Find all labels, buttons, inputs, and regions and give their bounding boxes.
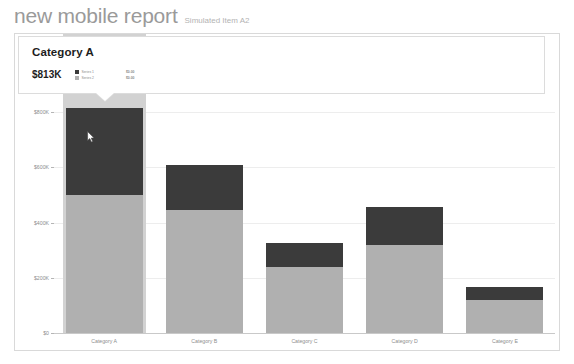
- y-axis-tick-label: $600K: [9, 164, 49, 170]
- x-axis-tick-label: Category C: [265, 338, 345, 344]
- legend-label: Series 1: [81, 70, 93, 74]
- bar-segment[interactable]: [466, 300, 543, 333]
- bar-segment[interactable]: [66, 195, 143, 333]
- tooltip-legend: Series 1Series 2: [75, 69, 93, 80]
- tooltip-metrics: $813K Series 1Series 2 $0.00$0.00: [32, 69, 134, 81]
- tooltip-aux-value: $0.00: [126, 76, 135, 80]
- y-axis-tick-mark: [51, 333, 54, 334]
- x-axis-tick-label: Category E: [465, 338, 545, 344]
- bar-segment[interactable]: [266, 267, 343, 333]
- y-axis-tick-label: $800K: [9, 109, 49, 115]
- page-title: new mobile report: [14, 4, 178, 28]
- legend-row: Series 1: [75, 70, 93, 74]
- legend-swatch: [75, 70, 79, 74]
- bar-segment[interactable]: [366, 207, 443, 244]
- tooltip-title: Category A: [32, 46, 94, 58]
- x-axis-line: [54, 333, 555, 334]
- legend-swatch: [75, 76, 79, 80]
- y-axis-tick-mark: [51, 223, 54, 224]
- bar-segment[interactable]: [166, 165, 243, 211]
- x-axis-tick-label: Category A: [64, 338, 144, 344]
- bar-group[interactable]: [266, 243, 343, 333]
- tooltip-card[interactable]: Category A $813K Series 1Series 2 $0.00$…: [18, 36, 545, 94]
- bar-segment[interactable]: [366, 245, 443, 333]
- legend-label: Series 2: [81, 76, 93, 80]
- bar-segment[interactable]: [466, 287, 543, 299]
- x-axis-tick-label: Category D: [365, 338, 445, 344]
- y-axis-tick-mark: [51, 278, 54, 279]
- y-axis-tick-label: $0: [9, 330, 49, 336]
- x-axis-tick-label: Category B: [164, 338, 244, 344]
- bar-segment[interactable]: [266, 243, 343, 266]
- tooltip-value: $813K: [32, 69, 61, 81]
- bar-group[interactable]: [66, 108, 143, 333]
- y-axis-tick-mark: [51, 112, 54, 113]
- tooltip-aux-stats: $0.00$0.00: [126, 69, 135, 80]
- bar-segment[interactable]: [66, 108, 143, 194]
- page-header: new mobile report Simulated Item A2: [14, 4, 249, 28]
- tooltip-caret: [96, 93, 114, 101]
- bar-group[interactable]: [166, 165, 243, 334]
- bar-group[interactable]: [366, 207, 443, 333]
- page-subtitle: Simulated Item A2: [185, 16, 250, 25]
- y-axis-tick-label: $200K: [9, 275, 49, 281]
- legend-row: Series 2: [75, 76, 93, 80]
- bar-segment[interactable]: [166, 210, 243, 333]
- y-axis-tick-label: $400K: [9, 220, 49, 226]
- tooltip-aux-value: $0.00: [126, 70, 135, 74]
- y-axis-tick-mark: [51, 167, 54, 168]
- bar-group[interactable]: [466, 287, 543, 333]
